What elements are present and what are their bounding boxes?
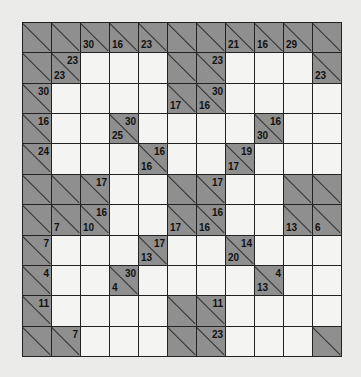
- entry-cell[interactable]: [110, 53, 138, 82]
- entry-cell[interactable]: [81, 327, 109, 356]
- entry-cell[interactable]: [313, 236, 341, 265]
- across-clue: 11: [212, 299, 223, 309]
- entry-cell[interactable]: [197, 236, 225, 265]
- clue-cell: 11: [23, 296, 51, 325]
- entry-cell[interactable]: [110, 296, 138, 325]
- across-clue: 17: [96, 178, 107, 188]
- entry-cell[interactable]: [226, 175, 254, 204]
- entry-cell[interactable]: [226, 114, 254, 143]
- block-cell: [23, 205, 51, 234]
- entry-cell[interactable]: [197, 266, 225, 295]
- entry-cell[interactable]: [110, 205, 138, 234]
- entry-cell[interactable]: [52, 236, 80, 265]
- clue-cell: 17: [168, 205, 196, 234]
- across-clue: 16: [154, 147, 165, 157]
- entry-cell[interactable]: [168, 144, 196, 173]
- entry-cell[interactable]: [52, 296, 80, 325]
- entry-cell[interactable]: [110, 327, 138, 356]
- entry-cell[interactable]: [284, 236, 312, 265]
- entry-cell[interactable]: [226, 266, 254, 295]
- clue-cell: 23: [313, 53, 341, 82]
- across-clue: 4: [43, 269, 49, 279]
- entry-cell[interactable]: [139, 114, 167, 143]
- entry-cell[interactable]: [313, 144, 341, 173]
- entry-cell[interactable]: [284, 84, 312, 113]
- entry-cell[interactable]: [284, 53, 312, 82]
- entry-cell[interactable]: [139, 266, 167, 295]
- entry-cell[interactable]: [197, 144, 225, 173]
- block-cell: [197, 23, 225, 52]
- entry-cell[interactable]: [313, 114, 341, 143]
- down-clue: 23: [141, 40, 152, 50]
- entry-cell[interactable]: [81, 84, 109, 113]
- entry-cell[interactable]: [284, 296, 312, 325]
- entry-cell[interactable]: [139, 53, 167, 82]
- entry-cell[interactable]: [110, 236, 138, 265]
- entry-cell[interactable]: [255, 53, 283, 82]
- entry-cell[interactable]: [139, 84, 167, 113]
- entry-cell[interactable]: [313, 266, 341, 295]
- entry-cell[interactable]: [226, 296, 254, 325]
- entry-cell[interactable]: [255, 144, 283, 173]
- block-cell: [313, 327, 341, 356]
- entry-cell[interactable]: [168, 236, 196, 265]
- entry-cell[interactable]: [52, 266, 80, 295]
- entry-cell[interactable]: [226, 84, 254, 113]
- entry-cell[interactable]: [226, 327, 254, 356]
- entry-cell[interactable]: [110, 175, 138, 204]
- across-clue: 7: [72, 330, 78, 340]
- entry-cell[interactable]: [255, 205, 283, 234]
- across-clue: 19: [241, 147, 252, 157]
- entry-cell[interactable]: [284, 144, 312, 173]
- entry-cell[interactable]: [168, 266, 196, 295]
- clue-cell: 7: [52, 327, 80, 356]
- entry-cell[interactable]: [255, 236, 283, 265]
- entry-cell[interactable]: [139, 327, 167, 356]
- entry-cell[interactable]: [110, 144, 138, 173]
- clue-cell: 1630: [255, 114, 283, 143]
- entry-cell[interactable]: [255, 175, 283, 204]
- entry-cell[interactable]: [226, 205, 254, 234]
- entry-cell[interactable]: [255, 327, 283, 356]
- across-clue: 23: [67, 56, 78, 66]
- entry-cell[interactable]: [52, 114, 80, 143]
- kakuro-grid: 3016232116292323232330173016163025163024…: [22, 22, 342, 357]
- entry-cell[interactable]: [81, 236, 109, 265]
- entry-cell[interactable]: [81, 114, 109, 143]
- clue-cell: 7: [52, 205, 80, 234]
- down-clue: 16: [141, 162, 152, 172]
- block-cell: [23, 23, 51, 52]
- down-clue: 10: [83, 223, 94, 233]
- entry-cell[interactable]: [255, 84, 283, 113]
- entry-cell[interactable]: [81, 144, 109, 173]
- block-cell: [284, 175, 312, 204]
- entry-cell[interactable]: [226, 53, 254, 82]
- entry-cell[interactable]: [110, 84, 138, 113]
- entry-cell[interactable]: [313, 84, 341, 113]
- entry-cell[interactable]: [52, 84, 80, 113]
- entry-cell[interactable]: [284, 266, 312, 295]
- across-clue: 7: [43, 239, 49, 249]
- across-clue: 24: [38, 147, 49, 157]
- entry-cell[interactable]: [313, 296, 341, 325]
- entry-cell[interactable]: [284, 327, 312, 356]
- down-clue: 4: [112, 283, 118, 293]
- entry-cell[interactable]: [197, 114, 225, 143]
- down-clue: 17: [170, 101, 181, 111]
- entry-cell[interactable]: [168, 114, 196, 143]
- entry-cell[interactable]: [139, 296, 167, 325]
- across-clue: 14: [241, 239, 252, 249]
- down-clue: 13: [141, 253, 152, 263]
- entry-cell[interactable]: [81, 53, 109, 82]
- down-clue: 21: [228, 40, 239, 50]
- entry-cell[interactable]: [81, 296, 109, 325]
- entry-cell[interactable]: [284, 114, 312, 143]
- clue-cell: 23: [197, 327, 225, 356]
- across-clue: 16: [38, 117, 49, 127]
- entry-cell[interactable]: [139, 175, 167, 204]
- entry-cell[interactable]: [255, 296, 283, 325]
- entry-cell[interactable]: [139, 205, 167, 234]
- entry-cell[interactable]: [81, 266, 109, 295]
- entry-cell[interactable]: [52, 144, 80, 173]
- across-clue: 23: [212, 330, 223, 340]
